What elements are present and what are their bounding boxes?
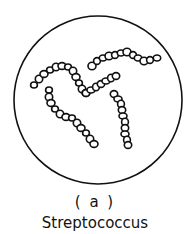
coccus-chain <box>45 87 98 147</box>
coccus-cell <box>124 142 131 149</box>
figure-caption: Streptococcus <box>0 214 190 232</box>
coccus-cell <box>46 87 53 93</box>
microscope-field-circle <box>14 16 182 184</box>
streptococcus-illustration <box>0 0 190 190</box>
bacteria-chains <box>31 48 161 148</box>
coccus-cell <box>147 57 154 64</box>
coccus-cell <box>153 55 160 61</box>
coccus-cell <box>31 82 38 88</box>
coccus-chain <box>110 91 131 149</box>
coccus-cell <box>90 141 98 148</box>
figure-sublabel: ( a ) <box>0 193 190 211</box>
coccus-chain <box>88 48 161 69</box>
coccus-cell <box>112 73 119 80</box>
coccus-chain <box>31 63 90 97</box>
